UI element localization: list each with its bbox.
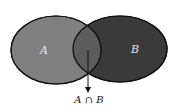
venn-diagram: A B A ∩ B — [0, 0, 179, 107]
intersection-label: A ∩ B — [73, 94, 103, 105]
set-a-label: A — [39, 44, 48, 57]
set-b-label: B — [130, 43, 139, 56]
